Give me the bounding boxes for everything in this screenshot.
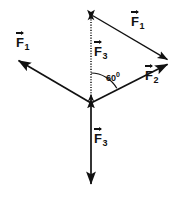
- angle-value: 60: [106, 73, 116, 83]
- label-angle-60: 600: [106, 71, 120, 83]
- label-f1-left: F1: [16, 34, 29, 52]
- label-f3-center-symbol: F: [94, 45, 102, 58]
- label-f1-left-symbol: F: [16, 36, 24, 49]
- label-f2-symbol: F: [145, 69, 153, 82]
- label-f3-center: F3: [94, 43, 107, 61]
- f3-dotted-bottom-arrowhead: [88, 94, 94, 101]
- label-f1-left-subscript: 1: [24, 42, 29, 52]
- label-f1-upper-right: F1: [131, 13, 144, 31]
- label-f1-upper-right-symbol: F: [131, 15, 139, 28]
- label-f2: F2: [145, 67, 158, 85]
- label-f2-subscript: 2: [153, 75, 158, 85]
- angle-degree-symbol: 0: [116, 71, 120, 78]
- label-f3-bottom-subscript: 3: [102, 138, 107, 148]
- label-f3-bottom: F3: [94, 130, 107, 148]
- vector-canvas: [0, 0, 182, 200]
- label-f3-bottom-symbol: F: [94, 132, 102, 145]
- label-f3-center-subscript: 3: [102, 51, 107, 61]
- label-f1-upper-right-subscript: 1: [139, 21, 144, 31]
- vector-f1-left: [19, 61, 92, 103]
- force-vector-diagram: F1 F1 F3 600 F2 F3: [0, 0, 182, 200]
